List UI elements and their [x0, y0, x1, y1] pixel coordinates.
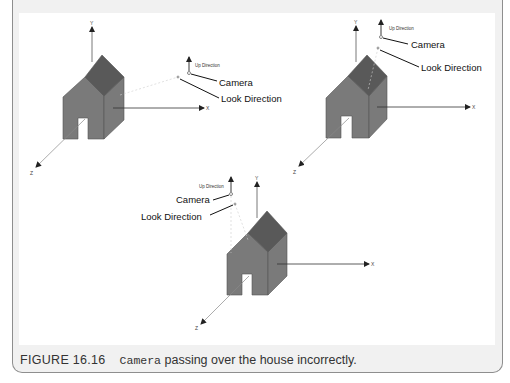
z-axis-label: Z	[195, 325, 198, 331]
up-direction-label: Up Direction	[389, 26, 414, 31]
look-direction-label: Look Direction	[221, 93, 282, 104]
scene-3: Y X Z Up Direction Camera Look Direction	[141, 175, 375, 331]
camera-point	[230, 193, 233, 196]
y-axis-label: Y	[354, 19, 358, 25]
x-axis-label: X	[472, 104, 476, 110]
look-leader	[210, 205, 233, 215]
z-axis-label: Z	[293, 169, 296, 175]
y-axis-label: Y	[255, 175, 259, 181]
camera-diagram: Y X Z Up Direction Camera Look Direction…	[0, 0, 510, 383]
look-leader	[180, 79, 219, 98]
y-axis-label: Y	[90, 20, 94, 26]
camera-label: Camera	[411, 39, 446, 50]
x-axis-label: X	[371, 261, 375, 267]
camera-leader	[383, 38, 408, 44]
camera-leader	[191, 74, 217, 81]
z-axis	[201, 276, 249, 324]
camera-label: Camera	[219, 77, 254, 88]
scene-2: Y X Z Up Direction Camera Look Direction	[293, 19, 482, 175]
look-leader	[380, 50, 419, 67]
figure-number: FIGURE 16.16	[20, 353, 106, 367]
caption-text: passing over the house incorrectly.	[161, 353, 357, 367]
camera-point	[380, 36, 383, 39]
sight-line	[120, 77, 178, 95]
up-direction-label: Up Direction	[195, 63, 220, 68]
x-axis-label: X	[206, 105, 210, 111]
camera-label: Camera	[176, 194, 211, 205]
figure-caption: FIGURE 16.16Camera passing over the hous…	[20, 353, 357, 367]
look-direction-label: Look Direction	[141, 211, 202, 222]
scene-1: Y X Z Up Direction Camera Look Direction	[30, 20, 282, 176]
caption-code: Camera	[120, 354, 161, 367]
sight-line	[235, 204, 248, 240]
z-axis	[299, 118, 349, 166]
z-axis	[36, 119, 85, 167]
up-direction-label: Up Direction	[199, 184, 224, 189]
camera-point	[188, 72, 191, 75]
look-direction-label: Look Direction	[421, 62, 482, 73]
camera-leader	[213, 195, 229, 200]
z-axis-label: Z	[30, 170, 33, 176]
